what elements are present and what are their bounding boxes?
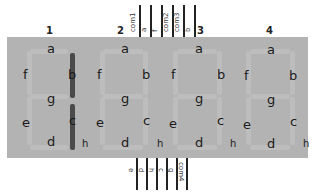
digit-3-label-d: d — [195, 136, 203, 149]
pin-com1 — [139, 5, 141, 37]
display-panel: a f b g e c d h a f b g e c d h a f b g … — [7, 37, 308, 158]
pin-label-h: h — [147, 168, 154, 172]
digit-4-label-d: d — [267, 137, 275, 150]
digit-2-label-b: b — [142, 68, 150, 81]
digit-1-label-h: h — [82, 139, 88, 149]
pin-com3 — [183, 5, 185, 37]
digit-4-label-b: b — [289, 69, 297, 82]
digit-1-number: 1 — [46, 25, 53, 36]
digit-3-label-h: h — [230, 139, 236, 149]
digit-4-number: 4 — [266, 25, 273, 36]
pin-label-g: g — [167, 168, 174, 172]
pin-e — [136, 158, 138, 190]
digit-3-label-f: f — [171, 68, 176, 81]
digit-2-label-f: f — [97, 68, 102, 81]
digit-2-label-d: d — [121, 136, 129, 149]
digit-2-label-e: e — [96, 116, 104, 129]
digit-2-label-h: h — [157, 139, 163, 149]
pin-label-com2: com2 — [163, 13, 170, 32]
digit-1-label-f: f — [23, 68, 28, 81]
pin-d — [146, 158, 148, 190]
digit-2-label-a: a — [121, 42, 129, 55]
pin-label-d: d — [137, 168, 144, 172]
pin-label-b: b — [185, 28, 192, 32]
digit-4-label-c: c — [290, 115, 297, 128]
pin-com4 — [186, 158, 188, 190]
digit-1-label-b: b — [68, 68, 76, 81]
digit-3-label-b: b — [217, 68, 225, 81]
digit-1-label-e: e — [22, 116, 30, 129]
pin-label-a: a — [141, 28, 148, 32]
digit-2-number: 2 — [117, 25, 124, 36]
digit-1-label-g: g — [47, 92, 55, 105]
digit-1-label-d: d — [47, 135, 55, 148]
digit-3-label-g: g — [195, 92, 203, 105]
pin-label-com4: com4 — [177, 162, 184, 181]
pin-label-c: c — [157, 168, 164, 172]
digit-4-label-f: f — [244, 69, 249, 82]
pin-a — [150, 5, 152, 37]
pin-h — [156, 158, 158, 190]
digit-2-label-g: g — [121, 92, 129, 105]
pin-label-com1: com1 — [130, 13, 137, 32]
digit-4-label-e: e — [243, 118, 251, 131]
digit-3-label-c: c — [217, 114, 224, 127]
digit-4-label-a: a — [267, 43, 275, 56]
pin-label-f: f — [152, 30, 159, 32]
digit-2-label-c: c — [143, 114, 150, 127]
digit-4-label-h: h — [303, 139, 309, 149]
digit-4-label-g: g — [267, 93, 275, 106]
digit-3-label-e: e — [169, 117, 177, 130]
pin-label-com3: com3 — [174, 13, 181, 32]
digit-3-number: 3 — [197, 25, 204, 36]
digit-3-label-a: a — [195, 42, 203, 55]
pin-label-e: e — [127, 168, 134, 172]
pin-b — [194, 5, 196, 37]
digit-1-label-a: a — [47, 42, 55, 55]
digit-1-label-c: c — [69, 114, 76, 127]
pin-c — [166, 158, 168, 190]
